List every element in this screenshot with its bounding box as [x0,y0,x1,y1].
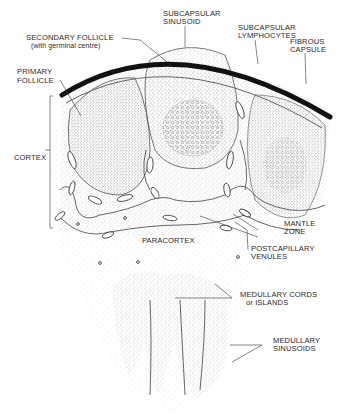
label-primary-follicle-1: PRIMARY [17,67,52,76]
label-medullary-sinusoids-2: SINUSOIDS [273,344,316,353]
lymph-node-diagram: SECONDARY FOLLICLE (with germinal centre… [0,0,343,419]
label-subcapsular-lymphocytes-2: LYMPHOCYTES [238,31,296,40]
germinal-centre [163,100,223,156]
label-fibrous-capsule-2: CAPSULE [290,45,326,54]
label-primary-follicle-2: FOLLICLE [17,76,54,85]
label-paracortex: PARACORTEX [142,236,195,245]
label-medullary-cords-2: or ISLANDS [246,298,288,307]
label-secondary-follicle: SECONDARY FOLLICLE [26,33,114,42]
label-secondary-follicle-note: (with germinal centre) [31,42,101,50]
cortex-bracket [50,96,53,228]
label-subcapsular-sinusoid-2: SINUSOID [163,17,201,26]
label-cortex: CORTEX [14,153,46,162]
label-mantle-zone-2: ZONE [284,227,306,236]
label-postcapillary-venules-2: VENULES [251,252,287,261]
